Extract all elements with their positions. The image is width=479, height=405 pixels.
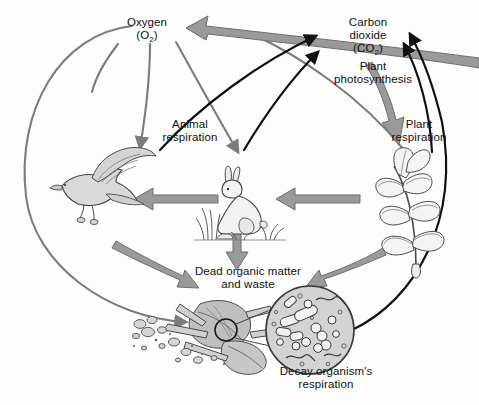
label-plant-respiration-line2: respiration bbox=[378, 131, 460, 144]
label-decay-line1: Decay organism's bbox=[256, 365, 396, 378]
flow-rabbit-to-hawk bbox=[134, 188, 218, 210]
label-plant-respiration-line1: Plant bbox=[378, 118, 460, 131]
label-animal-respiration: Animal respiration bbox=[144, 118, 236, 144]
label-decay-line2: respiration bbox=[256, 378, 396, 391]
label-dead-organic-matter: Dead organic matter and waste bbox=[178, 265, 318, 291]
flow-matter-group bbox=[112, 62, 404, 288]
label-plant-photosynthesis: Plant photosynthesis bbox=[318, 60, 428, 86]
label-oxygen-line1: Oxygen bbox=[104, 16, 190, 29]
label-animal-respiration-line2: respiration bbox=[144, 131, 236, 144]
label-co2-formula: (CO2) bbox=[320, 42, 416, 58]
label-plant-respiration: Plant respiration bbox=[378, 118, 460, 144]
flow-plant-to-rabbit bbox=[276, 188, 360, 210]
label-photosynthesis-line1: Plant bbox=[318, 60, 428, 73]
flow-rabbit-to-co2 bbox=[244, 52, 318, 150]
label-photosynthesis-line2: photosynthesis bbox=[318, 73, 428, 86]
label-co2-line1: Carbon bbox=[320, 16, 416, 29]
label-dead-matter-line1: Dead organic matter bbox=[178, 265, 318, 278]
label-animal-respiration-line1: Animal bbox=[144, 118, 236, 131]
label-oxygen-formula: (O2) bbox=[104, 29, 190, 45]
label-oxygen: Oxygen (O2) bbox=[104, 16, 190, 45]
cycle-diagram-canvas: Oxygen (O2) Carbon dioxide (CO2) Plant p… bbox=[0, 0, 479, 405]
flow-oxygen-arc-left bbox=[92, 44, 118, 92]
label-carbon-dioxide: Carbon dioxide (CO2) bbox=[320, 16, 416, 58]
organism-plant bbox=[376, 148, 444, 278]
label-decay-respiration: Decay organism's respiration bbox=[256, 365, 396, 391]
label-dead-matter-line2: and waste bbox=[178, 278, 318, 291]
decay-organisms-magnified bbox=[266, 286, 354, 374]
label-co2-line2: dioxide bbox=[320, 29, 416, 42]
organism-hawk bbox=[50, 147, 156, 224]
